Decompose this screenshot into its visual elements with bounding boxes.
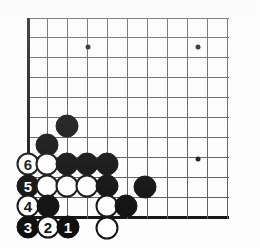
star-point [196, 44, 201, 49]
grid-line-vertical [187, 18, 188, 219]
grid-line-horizontal [28, 18, 229, 19]
move-number-label: 4 [24, 199, 32, 214]
black-stone [115, 195, 138, 218]
grid-line-horizontal [28, 137, 229, 138]
black-stone [56, 115, 79, 138]
grid-line-horizontal [28, 77, 229, 78]
move-number-label: 5 [24, 179, 32, 194]
grid-line-vertical [167, 18, 168, 219]
star-point [85, 44, 90, 49]
go-board-diagram: 654321 [0, 0, 260, 248]
grid-line-vertical [207, 18, 208, 219]
grid-line-horizontal [28, 37, 229, 38]
move-number-label: 2 [44, 220, 52, 235]
grid-line-horizontal [28, 97, 229, 98]
move-number-label: 1 [64, 220, 72, 235]
white-stone [96, 217, 119, 240]
grid-line-vertical [227, 18, 228, 219]
grid-line-vertical [127, 18, 128, 219]
move-number-label: 6 [24, 157, 32, 172]
move-number-label: 3 [24, 220, 32, 235]
black-stone [134, 176, 157, 199]
black-stone [96, 153, 119, 176]
black-stone [37, 195, 60, 218]
star-point [196, 156, 201, 161]
grid-line-horizontal [28, 57, 229, 58]
numbered-black-stone: 1 [57, 216, 80, 239]
